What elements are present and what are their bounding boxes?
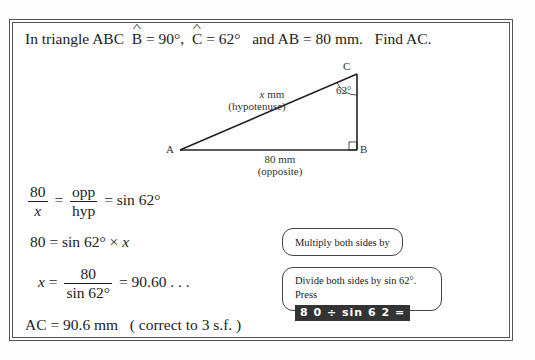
fraction-80-over-x: 80x bbox=[28, 183, 48, 220]
hyp-unit: mm bbox=[265, 88, 285, 100]
hypotenuse-length: x mm bbox=[244, 88, 300, 100]
note-multiply: Multiply both sides by x. bbox=[282, 228, 403, 256]
hypotenuse-line bbox=[180, 74, 357, 150]
step-1: 80x = opphyp = sin 62° bbox=[25, 183, 160, 220]
vertex-a-label: A bbox=[166, 143, 174, 155]
calculator-keys: 8 0 ÷ sin 6 2 = bbox=[295, 305, 410, 321]
step-3: x = 80sin 62° = 90.60 . . . bbox=[38, 265, 190, 302]
right-angle-marker bbox=[349, 142, 357, 150]
fraction-opp-over-hyp: opphyp bbox=[70, 183, 97, 220]
note-divide: Divide both sides by sin 62°. Press 8 0 … bbox=[282, 267, 442, 311]
step-2: 80 = sin 62° × x bbox=[30, 233, 129, 251]
base-label: (opposite) bbox=[240, 165, 320, 177]
divide-instruction: Divide both sides by sin 62°. Press bbox=[295, 274, 429, 302]
fraction-80-over-sin62: 80sin 62° bbox=[64, 265, 112, 302]
vertex-b-label: B bbox=[360, 143, 367, 155]
step-4-answer: AC = 90.6 mm ( correct to 3 s.f. ) bbox=[25, 316, 241, 334]
vertex-c-label: C bbox=[343, 60, 350, 72]
hypotenuse-label: (hypotenuse) bbox=[214, 100, 300, 112]
triangle-diagram bbox=[0, 0, 535, 360]
base-length: 80 mm bbox=[240, 153, 320, 165]
angle-c-label: 62° bbox=[336, 84, 351, 96]
